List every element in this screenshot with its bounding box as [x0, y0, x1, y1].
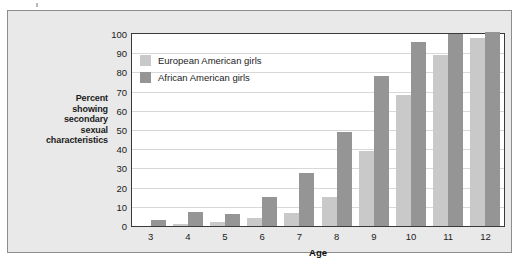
y-axis-tick-30: 30 [105, 163, 127, 174]
bar-african-american-age-4 [188, 212, 203, 226]
x-axis-tick-12: 12 [467, 231, 504, 242]
y-axis-tick-80: 80 [105, 67, 127, 78]
bar-european-american-age-9 [359, 151, 374, 226]
bar-european-american-age-11 [433, 55, 448, 226]
legend-label-african-american-girls: African American girls [158, 72, 250, 83]
y-axis-tick-labels: 1009080706050403020100 [101, 33, 127, 227]
x-axis-tick-10: 10 [392, 231, 429, 242]
bar-african-american-age-3 [151, 220, 166, 226]
x-axis-tick-5: 5 [206, 231, 243, 242]
y-axis-tick-0: 0 [105, 221, 127, 232]
bar-group-age-12 [467, 34, 504, 226]
y-axis-title-line-3: secondary [22, 114, 108, 125]
bar-african-american-age-5 [225, 214, 240, 226]
bar-african-american-age-9 [374, 76, 389, 226]
legend-swatch-european-american-girls [140, 55, 151, 66]
x-axis-tick-3: 3 [132, 231, 169, 242]
y-axis-tick-20: 20 [105, 182, 127, 193]
bar-group-age-11 [430, 34, 467, 226]
x-axis-tick-6: 6 [244, 231, 281, 242]
bar-european-american-age-7 [284, 213, 299, 226]
y-axis-tick-10: 10 [105, 201, 127, 212]
legend-label-european-american-girls: European American girls [158, 55, 262, 66]
x-axis-tick-8: 8 [318, 231, 355, 242]
y-axis-tick-40: 40 [105, 144, 127, 155]
x-axis-tick-4: 4 [169, 231, 206, 242]
bar-african-american-age-7 [299, 173, 314, 226]
y-axis-tick-60: 60 [105, 105, 127, 116]
page-speck [36, 3, 38, 7]
bar-european-american-age-10 [396, 95, 411, 226]
y-axis-title-line-2: showing [22, 104, 108, 115]
bar-african-american-age-6 [262, 197, 277, 226]
bar-group-age-9 [355, 34, 392, 226]
y-axis-title-line-1: Percent [22, 93, 108, 104]
bar-european-american-age-8 [322, 197, 337, 226]
chart-figure-frame: Percent showing secondary sexual charact… [7, 10, 512, 253]
chart-legend: European American girls African American… [140, 53, 262, 87]
x-axis-tick-9: 9 [355, 231, 392, 242]
bar-european-american-age-6 [247, 218, 262, 226]
bar-european-american-age-4 [173, 224, 188, 226]
y-axis-tick-70: 70 [105, 86, 127, 97]
y-axis-title-line-5: characteristics [22, 135, 108, 146]
x-axis-tick-labels: 3456789101112 [132, 231, 504, 242]
y-axis-tick-100: 100 [105, 29, 127, 40]
y-axis-tick-50: 50 [105, 125, 127, 136]
bar-african-american-age-12 [485, 32, 500, 226]
x-axis-tick-11: 11 [430, 231, 467, 242]
bar-european-american-age-5 [210, 222, 225, 226]
bar-african-american-age-10 [411, 42, 426, 226]
bar-group-age-7 [281, 34, 318, 226]
legend-swatch-african-american-girls [140, 72, 151, 83]
bar-european-american-age-12 [470, 38, 485, 226]
bar-african-american-age-8 [337, 132, 352, 226]
bar-group-age-10 [392, 34, 429, 226]
legend-item-european-american-girls: European American girls [140, 53, 262, 67]
bar-group-age-8 [318, 34, 355, 226]
legend-item-african-american-girls: African American girls [140, 70, 262, 84]
y-axis-tick-90: 90 [105, 48, 127, 59]
x-axis-tick-7: 7 [281, 231, 318, 242]
x-axis-title: Age [132, 247, 504, 258]
y-axis-title-line-4: sexual [22, 125, 108, 136]
y-axis-title: Percent showing secondary sexual charact… [22, 93, 108, 146]
bar-african-american-age-11 [448, 34, 463, 226]
